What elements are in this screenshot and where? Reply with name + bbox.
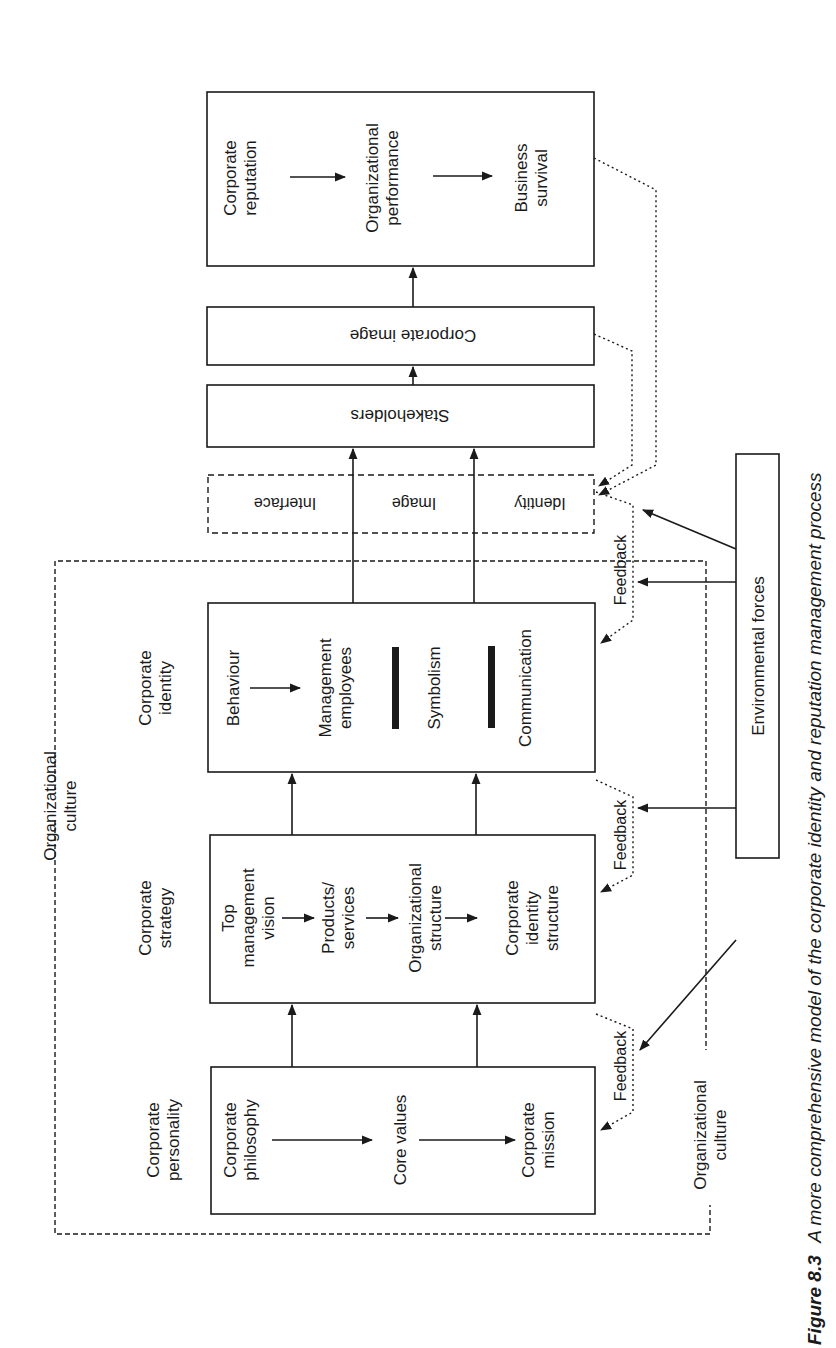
org-culture-label-top-l2: culture bbox=[61, 780, 80, 831]
org-culture-label-bottom-l2: culture bbox=[711, 1109, 730, 1160]
corporate-identity-reputation-diagram: Corporate personality Corporate philosop… bbox=[0, 0, 836, 1348]
interface-item-identity: Identity bbox=[514, 495, 566, 512]
item-corporate-philosophy-l2: philosophy bbox=[241, 1099, 260, 1181]
item-mgmt-employees-l2: employees bbox=[336, 647, 355, 729]
org-culture-label-bottom-l1: Organizational bbox=[691, 1080, 710, 1190]
item-corporate-reputation-l1: Corporate bbox=[221, 140, 240, 216]
personality-stage: Corporate personality Corporate philosop… bbox=[144, 1067, 595, 1214]
interface-stage: Identity Image Interface bbox=[208, 475, 594, 533]
figure-caption: Figure 8.3 A more comprehensive model of… bbox=[804, 472, 825, 1345]
item-top-mgmt-vision-l1: Top bbox=[219, 904, 238, 931]
svg-text:Figure 8.3 A more compre: Figure 8.3 A more comprehensive model of… bbox=[804, 472, 825, 1345]
strategy-heading-line1: Corporate bbox=[136, 880, 155, 956]
separator-bar-2 bbox=[488, 646, 495, 728]
stakeholders-label: Stakeholders bbox=[350, 406, 449, 425]
item-products-services-l1: Products/ bbox=[319, 882, 338, 954]
feedback-label-1: Feedback bbox=[612, 1030, 629, 1101]
reputation-stage: Corporate reputation Organizational perf… bbox=[207, 92, 594, 266]
personality-heading-line1: Corporate bbox=[144, 1102, 163, 1178]
item-top-mgmt-vision-l2: management bbox=[239, 868, 258, 968]
item-org-structure-l2: structure bbox=[426, 885, 445, 951]
corporate-image-label: Corporate image bbox=[350, 326, 477, 345]
item-org-structure-l1: Organizational bbox=[406, 863, 425, 973]
feedback-loop-image-to-interface bbox=[594, 334, 632, 486]
item-products-services-l2: services bbox=[339, 887, 358, 949]
identity-stage: Corporate identity Behaviour Management … bbox=[136, 603, 595, 772]
strategy-heading-line2: strategy bbox=[156, 887, 175, 948]
caption-label: Figure 8.3 bbox=[804, 1255, 825, 1345]
identity-heading-line1: Corporate bbox=[136, 650, 155, 726]
interface-item-interface: Interface bbox=[254, 495, 316, 512]
item-ci-structure-l2: identity bbox=[523, 891, 542, 945]
item-org-performance-l2: performance bbox=[383, 130, 402, 225]
environmental-force-arrows bbox=[638, 510, 736, 1050]
feedback-label-2: Feedback bbox=[612, 799, 629, 870]
item-corporate-mission-l2: mission bbox=[539, 1111, 558, 1169]
item-symbolism: Symbolism bbox=[425, 646, 444, 729]
identity-heading-line2: identity bbox=[156, 661, 175, 715]
strategy-stage: Corporate strategy Top management vision… bbox=[136, 835, 595, 1003]
interface-item-image: Image bbox=[392, 495, 437, 512]
item-top-mgmt-vision-l3: vision bbox=[259, 896, 278, 939]
item-corporate-mission-l1: Corporate bbox=[519, 1102, 538, 1178]
feedback-loops bbox=[594, 158, 656, 1130]
feedback-loop-reputation-to-interface bbox=[594, 158, 656, 495]
org-culture-label-top-l1: Organizational bbox=[41, 751, 60, 861]
personality-heading-line2: personality bbox=[164, 1098, 183, 1181]
item-org-performance-l1: Organizational bbox=[363, 123, 382, 233]
environmental-forces-label: Environmental forces bbox=[749, 576, 768, 736]
item-corporate-philosophy-l1: Corporate bbox=[221, 1102, 240, 1178]
item-behaviour: Behaviour bbox=[224, 649, 243, 726]
item-core-values: Core values bbox=[391, 1095, 410, 1186]
item-ci-structure-l1: Corporate bbox=[503, 880, 522, 956]
item-ci-structure-l3: structure bbox=[543, 885, 562, 951]
item-communication: Communication bbox=[516, 629, 535, 747]
separator-bar-1 bbox=[392, 647, 399, 729]
item-business-survival-l1: Business bbox=[512, 144, 531, 213]
item-corporate-reputation-l2: reputation bbox=[241, 140, 260, 216]
item-business-survival-l2: survival bbox=[532, 149, 551, 207]
item-mgmt-employees-l1: Management bbox=[316, 638, 335, 738]
feedback-label-3: Feedback bbox=[612, 534, 629, 605]
caption-text: A more comprehensive model of the corpor… bbox=[804, 472, 825, 1244]
